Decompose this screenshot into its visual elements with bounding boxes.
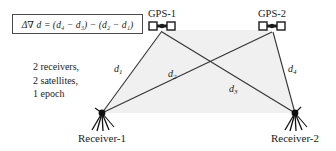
distance-label-d1: d1 (114, 64, 123, 74)
shaded-geometry-region (102, 30, 295, 113)
distance-label-d4: d4 (288, 64, 297, 74)
scenario-info-block: 2 receivers, 2 satellites, 1 epoch (33, 60, 79, 101)
formula-text: Δ∇ d = (d₄ − d₃) − (d₂ − d₁) (22, 19, 134, 30)
scenario-info-line-1: 2 receivers, (33, 60, 79, 74)
gps-2-label: GPS-2 (258, 9, 286, 20)
distance-label-d1-sub: 1 (119, 68, 123, 76)
gps-1-label: GPS-1 (148, 9, 176, 20)
scenario-info-line-2: 2 satellites, (33, 74, 79, 88)
gps-1-satellite-icon (149, 22, 175, 30)
distance-label-d3-sub: 3 (234, 88, 238, 96)
formula-box: Δ∇ d = (d₄ − d₃) − (d₂ − d₁) (12, 14, 143, 34)
distance-label-d4-sub: 4 (293, 68, 297, 76)
receiver-1-label: Receiver-1 (78, 133, 126, 144)
distance-label-d2: d2 (168, 69, 177, 79)
gps-2-satellite-icon (259, 22, 285, 30)
receiver-2-label: Receiver-2 (271, 133, 319, 144)
scenario-info-line-3: 1 epoch (33, 87, 79, 101)
distance-label-d2-sub: 2 (173, 73, 177, 81)
gps-double-difference-diagram: Δ∇ d = (d₄ − d₃) − (d₂ − d₁) GPS-1 GPS-2… (0, 0, 336, 151)
distance-label-d3: d3 (229, 84, 238, 94)
